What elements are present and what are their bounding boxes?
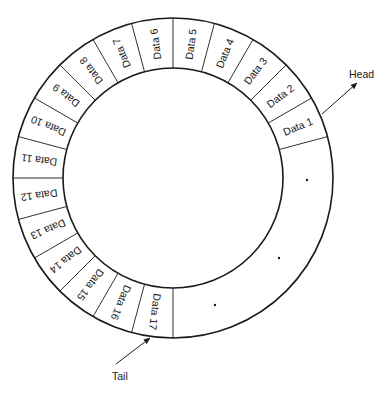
segment-label: Data 5 <box>183 28 199 60</box>
segment-divider <box>132 23 145 71</box>
segment-label: Data 14 <box>48 244 85 276</box>
segment-dividers <box>13 18 328 338</box>
ellipsis-dot <box>278 257 280 259</box>
tail-pointer-arrow <box>116 338 150 364</box>
segment-label: Data 15 <box>75 267 107 304</box>
segment-label: Data 12 <box>20 187 58 204</box>
segment-label: Data 17 <box>147 293 164 331</box>
segment-label: Data 4 <box>213 37 236 70</box>
segment-label: Data 11 <box>20 152 57 169</box>
segment-label: Data 9 <box>50 82 82 110</box>
segment-divider <box>279 137 327 150</box>
circular-buffer-diagram: Data 1Data 2Data 3Data 4Data 5Data 6Data… <box>0 0 387 393</box>
segment-label: Data 6 <box>147 28 163 60</box>
ellipsis-dot <box>214 304 216 306</box>
segment-labels: Data 1Data 2Data 3Data 4Data 5Data 6Data… <box>20 28 314 331</box>
segment-label: Data 1 <box>281 115 314 138</box>
segment-label: Data 2 <box>264 82 296 110</box>
segment-divider <box>18 206 66 219</box>
ellipsis-dot <box>306 179 308 181</box>
segment-label: Data 10 <box>29 114 68 139</box>
head-pointer-arrow <box>322 83 357 114</box>
inner-ring <box>63 68 283 288</box>
segment-label: Data 16 <box>109 283 134 322</box>
segment-label: Data 13 <box>29 217 68 242</box>
tail-label: Tail <box>112 370 128 382</box>
segment-label: Data 8 <box>77 55 105 87</box>
segment-label: Data 3 <box>241 55 269 87</box>
segment-label: Data 7 <box>110 37 133 70</box>
continuation-dots <box>214 179 308 306</box>
head-label: Head <box>349 68 374 80</box>
